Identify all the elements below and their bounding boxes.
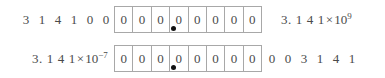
digit: 3 bbox=[296, 52, 312, 65]
row-1-scientific-notation-label: 3. 1 4 1×109 bbox=[281, 13, 352, 26]
box-cell: 0 bbox=[115, 7, 133, 32]
digit: 1 bbox=[34, 13, 50, 26]
box-cell: 0 bbox=[133, 7, 151, 32]
row-2-radix-point-marker bbox=[171, 65, 176, 70]
row-2-trailing-digits: 0 0 3 1 4 1 bbox=[264, 52, 360, 65]
multiplication-sign: × bbox=[77, 51, 84, 66]
box-cell: 0 bbox=[244, 46, 261, 71]
row-2-scientific-notation-label: 3. 1 4 1×10−7 bbox=[32, 52, 108, 65]
row-1-leading-digits: 3 1 4 1 0 0 bbox=[18, 13, 114, 26]
mantissa: 3. 1 4 1 bbox=[281, 12, 325, 27]
digit: 3 bbox=[18, 13, 34, 26]
box-cell: 0 bbox=[133, 46, 151, 71]
box-cell: 0 bbox=[189, 7, 207, 32]
box-cell: 0 bbox=[115, 46, 133, 71]
box-cell: 0 bbox=[207, 46, 225, 71]
mantissa: 3. 1 4 1 bbox=[32, 51, 76, 66]
box-cell: 0 bbox=[244, 7, 261, 32]
box-cell: 0 bbox=[225, 46, 243, 71]
box-cell: 0 bbox=[189, 46, 207, 71]
box-cell: 0 bbox=[225, 7, 243, 32]
digit: 0 bbox=[280, 52, 296, 65]
exponent: 9 bbox=[347, 11, 352, 21]
digit: 0 bbox=[264, 52, 280, 65]
digit: 4 bbox=[50, 13, 66, 26]
box-cell: 0 bbox=[152, 46, 170, 71]
digit: 1 bbox=[312, 52, 328, 65]
row-1-radix-point-marker bbox=[171, 26, 176, 31]
digit: 1 bbox=[344, 52, 360, 65]
digit: 4 bbox=[328, 52, 344, 65]
base: 10 bbox=[85, 51, 98, 66]
multiplication-sign: × bbox=[326, 12, 333, 27]
base: 10 bbox=[334, 12, 347, 27]
box-cell: 0 bbox=[152, 7, 170, 32]
exponent: −7 bbox=[98, 50, 108, 60]
digit: 0 bbox=[98, 13, 114, 26]
box-cell: 0 bbox=[207, 7, 225, 32]
row-1-box-grid: 0 0 0 0 0 0 0 0 bbox=[114, 6, 262, 33]
row-2-box-grid: 0 0 0 0 0 0 0 0 bbox=[114, 45, 262, 72]
number-representation-diagram: 3 1 4 1 0 0 0 0 0 0 0 0 0 0 3. 1 4 1×109… bbox=[0, 0, 385, 78]
digit: 0 bbox=[82, 13, 98, 26]
digit: 1 bbox=[66, 13, 82, 26]
